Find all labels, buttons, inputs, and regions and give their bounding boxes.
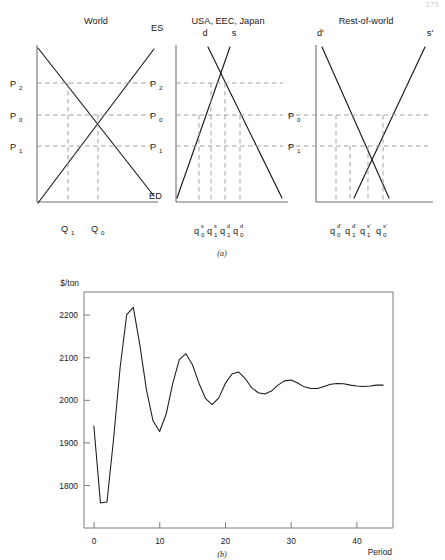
panel-usa-title: USA, EEC, Japan bbox=[191, 16, 264, 26]
xtick-label-10: 10 bbox=[155, 536, 165, 546]
panel-usa-eec-japan: USA, EEC, Japan P 2 P 0 bbox=[150, 16, 288, 238]
usa-q0d-base: q bbox=[233, 226, 238, 236]
xtick-label-30: 30 bbox=[287, 536, 297, 546]
ytick-label-1800: 1800 bbox=[59, 481, 78, 491]
figure-b-caption: (b) bbox=[217, 550, 227, 559]
panel-rest-of-world: Rest-of-world P 0 P 1 bbox=[288, 16, 433, 238]
ytick-label-1900: 1900 bbox=[59, 438, 78, 448]
usa-q1s-sub: 1 bbox=[214, 231, 218, 238]
row-q0d-sup: d' bbox=[337, 223, 341, 229]
usa-q0s-base: q bbox=[194, 226, 199, 236]
world-q1-sub: 1 bbox=[71, 229, 75, 236]
usa-q1d-sup: d bbox=[227, 223, 230, 229]
world-price-label-p2: P2 P 2 bbox=[10, 79, 23, 91]
world-q0-sub: 0 bbox=[101, 229, 105, 236]
row-q1d-sup: d' bbox=[352, 223, 356, 229]
usa-quantity-label-0: q 0 s bbox=[194, 223, 205, 238]
row-price-label-p0: P 0 bbox=[288, 111, 301, 123]
row-q0d-base: q bbox=[330, 226, 335, 236]
usa-quantity-label-1: q 1 s bbox=[207, 223, 218, 238]
world-price-label-p1: P 1 bbox=[10, 142, 23, 154]
panel-world-title: World bbox=[84, 16, 108, 26]
row-quantity-label-3: q 0 s' bbox=[376, 223, 387, 238]
world-price-label-p0: P 0 bbox=[10, 111, 23, 123]
chart-x-tick-labels: 0 10 20 30 40 bbox=[92, 536, 362, 546]
row-p0-sub: 0 bbox=[297, 116, 301, 123]
usa-q0s-sup: s bbox=[201, 223, 204, 229]
row-quantity-label-0: q 0 d' bbox=[330, 223, 341, 238]
row-p1-base: P bbox=[288, 142, 294, 152]
row-price-label-p1: P 1 bbox=[288, 142, 301, 154]
row-q1d-base: q bbox=[345, 226, 350, 236]
usa-quantity-label-2: q 1 d bbox=[220, 223, 231, 238]
world-p1-base: P bbox=[10, 142, 16, 152]
row-q0s-sup: s' bbox=[383, 223, 387, 229]
usa-q0d-sub: 0 bbox=[240, 231, 244, 238]
row-q1d-sub: 1 bbox=[352, 231, 356, 238]
figure-b: 1800 1900 2000 2100 2200 $/ton 0 10 20 3… bbox=[0, 272, 445, 560]
row-q1s-base: q bbox=[360, 226, 365, 236]
row-quantity-label-2: q 1 s' bbox=[360, 223, 371, 238]
world-ed-curve bbox=[38, 48, 154, 196]
row-q1s-sub: 1 bbox=[367, 231, 371, 238]
usa-quantity-label-3: q 0 d bbox=[233, 223, 244, 238]
world-es-curve bbox=[38, 49, 154, 203]
xtick-label-40: 40 bbox=[352, 536, 362, 546]
usa-d-curve bbox=[208, 47, 282, 198]
usa-q1d-base: q bbox=[220, 226, 225, 236]
row-p0-base: P bbox=[288, 111, 294, 121]
world-p2-base: P bbox=[10, 79, 16, 89]
usa-p0-base: P bbox=[150, 111, 156, 121]
page-number: 275 bbox=[426, 1, 439, 8]
figure-a-caption: (a) bbox=[217, 249, 227, 258]
world-quantity-label-q0: Q 0 bbox=[91, 224, 105, 236]
usa-p1-base: P bbox=[150, 142, 156, 152]
usa-q0s-sub: 0 bbox=[201, 231, 205, 238]
world-p2-sub: 2 bbox=[19, 84, 23, 91]
row-q0s-sub: 0 bbox=[383, 231, 387, 238]
row-quantity-label-1: q 1 d' bbox=[345, 223, 356, 238]
row-s-label: s' bbox=[427, 28, 434, 38]
xtick-label-20: 20 bbox=[221, 536, 231, 546]
usa-q1s-sup: s bbox=[214, 223, 217, 229]
panel-world: World P2 P 2 P 0 bbox=[10, 16, 163, 236]
usa-price-label-p2: P 2 bbox=[150, 79, 163, 91]
usa-p1-sub: 1 bbox=[159, 147, 163, 154]
world-ed-label: ED bbox=[149, 191, 162, 201]
world-p0-sub: 0 bbox=[19, 116, 23, 123]
chart-y-ticks bbox=[84, 315, 90, 485]
ytick-label-2200: 2200 bbox=[59, 310, 78, 320]
figure-root: 275 World P2 P 2 bbox=[0, 0, 445, 560]
usa-s-curve bbox=[177, 47, 230, 198]
usa-q1s-base: q bbox=[207, 226, 212, 236]
ytick-label-2000: 2000 bbox=[59, 395, 78, 405]
row-q0d-sub: 0 bbox=[337, 231, 341, 238]
row-d-label: d' bbox=[317, 28, 324, 38]
row-q1s-sup: s' bbox=[367, 223, 371, 229]
usa-d-label: d bbox=[202, 28, 207, 38]
usa-price-label-p0: P 0 bbox=[150, 111, 163, 123]
panel-row-title: Rest-of-world bbox=[339, 16, 394, 26]
row-s-curve bbox=[354, 47, 425, 198]
usa-s-label: s bbox=[232, 28, 237, 38]
chart-xlabel: Period bbox=[368, 547, 393, 557]
usa-q1d-sub: 1 bbox=[227, 231, 231, 238]
ytick-label-2100: 2100 bbox=[59, 353, 78, 363]
price-series-line bbox=[94, 307, 383, 503]
usa-q0d-sup: d bbox=[240, 223, 243, 229]
chart-y-tick-labels: 1800 1900 2000 2100 2200 bbox=[59, 310, 78, 490]
chart-x-ticks bbox=[94, 522, 357, 528]
world-quantity-label-q1: Q 1 bbox=[61, 224, 75, 236]
row-p1-sub: 1 bbox=[297, 147, 301, 154]
row-d-curve bbox=[322, 47, 389, 198]
world-es-label: ES bbox=[151, 23, 163, 33]
usa-p0-sub: 0 bbox=[159, 116, 163, 123]
world-q0-base: Q bbox=[91, 224, 98, 234]
chart-frame bbox=[84, 292, 393, 528]
xtick-label-0: 0 bbox=[92, 536, 97, 546]
row-q0s-base: q bbox=[376, 226, 381, 236]
usa-price-label-p1: P 1 bbox=[150, 142, 163, 154]
usa-p2-sub: 2 bbox=[159, 84, 163, 91]
chart-ylabel: $/ton bbox=[60, 278, 79, 288]
world-p1-sub: 1 bbox=[19, 147, 23, 154]
